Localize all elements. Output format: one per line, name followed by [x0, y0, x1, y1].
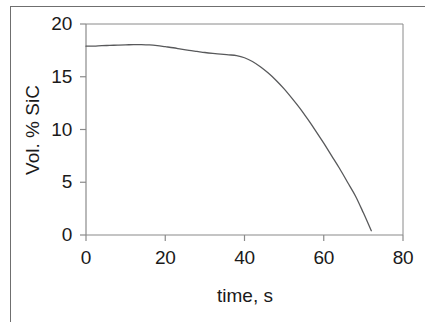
x-tick-label-60: 60 — [313, 247, 334, 269]
y-tick-label-0: 0 — [20, 224, 72, 246]
figure-container: 20151050 020406080 time, s Vol. % SiC — [0, 0, 425, 328]
x-axis-title: time, s — [217, 285, 273, 307]
x-tick-label-80: 80 — [393, 247, 414, 269]
x-tick-label-40: 40 — [234, 247, 255, 269]
x-tick-label-0: 0 — [81, 247, 91, 269]
y-axis-title: Vol. % SiC — [22, 85, 44, 175]
line-chart-plot — [0, 0, 425, 328]
y-tick-label-20: 20 — [20, 13, 72, 35]
chart-series-group — [86, 45, 371, 231]
x-tick-label-20: 20 — [155, 247, 176, 269]
